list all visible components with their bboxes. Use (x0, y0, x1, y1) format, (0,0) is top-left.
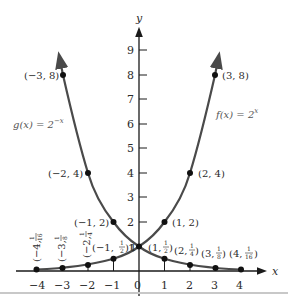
svg-text:16: 16 (245, 253, 253, 260)
label--1-half: (−1, 1 2 ) (92, 239, 129, 254)
svg-text:2: 2 (164, 247, 168, 254)
x-tick--1: −1 (104, 279, 120, 292)
svg-text:1: 1 (164, 239, 168, 246)
svg-text:(2,: (2, (174, 245, 187, 256)
exponential-functions-chart: x y 9 8 7 6 5 4 3 2 1 −4 −3 −2 −1 0 1 2 … (0, 0, 288, 297)
x-tick--2: −2 (79, 279, 95, 292)
f-function-label: f(x) = 2x (215, 107, 258, 120)
label--4-sixteenth: (−4, 1 16 (28, 233, 43, 262)
svg-text:(−4,: (−4, (31, 240, 42, 262)
x-tick--4: −4 (29, 279, 45, 292)
svg-text:(1,: (1, (148, 242, 161, 253)
svg-text:(−1,: (−1, (92, 242, 114, 253)
svg-text:8: 8 (61, 236, 68, 240)
x-axis-label: x (272, 265, 279, 278)
y-ticks: 9 8 7 6 5 4 3 2 1 (127, 44, 147, 255)
y-tick-3: 3 (127, 191, 134, 204)
label-2-4: (2, 4) (198, 168, 225, 179)
svg-text:): ) (169, 242, 173, 253)
x-tick-3: 3 (211, 279, 218, 292)
svg-text:2: 2 (120, 247, 124, 254)
x-tick-4: 4 (236, 279, 243, 292)
label-3-8: (3, 8) (222, 70, 249, 81)
svg-text:): ) (222, 248, 226, 259)
label-1-half: (1, 1 2 ) (148, 239, 173, 254)
svg-text:1: 1 (28, 236, 35, 240)
y-tick-2: 2 (127, 216, 134, 229)
svg-text:16: 16 (36, 233, 43, 241)
svg-text:(4,: (4, (229, 248, 242, 259)
svg-text:1: 1 (78, 232, 85, 236)
g-function-label: g(x) = 2−x (13, 117, 64, 130)
svg-text:): ) (195, 245, 199, 256)
label-4-sixteenth: (4, 1 16 ) (229, 245, 258, 260)
svg-text:): ) (125, 242, 129, 253)
x-tick-2: 2 (186, 279, 193, 292)
label-2-quarter: (2, 1 4 ) (174, 242, 199, 257)
x-tick-0: 0 (134, 279, 141, 292)
svg-text:8: 8 (217, 253, 221, 260)
label--3-8: (−3, 8) (24, 70, 59, 81)
y-tick-8: 8 (127, 69, 134, 82)
label--1-2: (−1, 2) (74, 217, 109, 228)
bottom-divider (0, 292, 288, 294)
label--2-4: (−2, 4) (48, 168, 83, 179)
y-tick-9: 9 (127, 44, 134, 57)
y-tick-6: 6 (127, 118, 134, 131)
y-tick-5: 5 (127, 142, 134, 155)
svg-text:): ) (254, 248, 258, 259)
label--3-eighth: (−3, 1 8 (53, 235, 68, 262)
svg-text:1: 1 (247, 245, 251, 252)
svg-text:(−3,: (−3, (56, 240, 67, 262)
x-tick-1: 1 (161, 279, 168, 292)
svg-text:1: 1 (120, 239, 124, 246)
label--2-quarter: (−2, 1 4 (78, 231, 93, 258)
svg-text:(3,: (3, (201, 248, 214, 259)
svg-text:1: 1 (190, 242, 194, 249)
y-tick-7: 7 (127, 93, 134, 106)
y-tick-4: 4 (127, 167, 134, 180)
svg-text:1: 1 (217, 245, 221, 252)
svg-text:4: 4 (86, 232, 93, 236)
svg-text:4: 4 (190, 250, 194, 257)
label-1-2: (1, 2) (172, 217, 199, 228)
x-tick--3: −3 (54, 279, 70, 292)
svg-text:(−2,: (−2, (81, 236, 92, 258)
label-y-intercept: 1 (130, 242, 136, 253)
label-3-eighth: (3, 1 8 ) (201, 245, 226, 260)
svg-text:1: 1 (53, 236, 60, 240)
x-ticks: −4 −3 −2 −1 0 1 2 3 4 (29, 259, 243, 292)
y-axis-label: y (135, 12, 143, 25)
